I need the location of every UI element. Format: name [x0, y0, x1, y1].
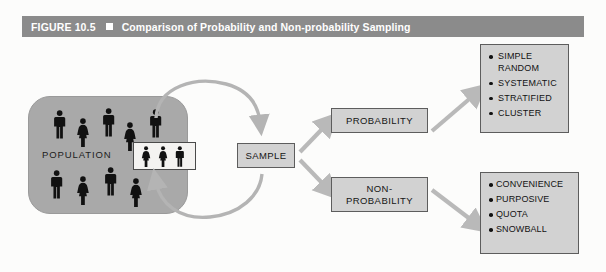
nonprobability-types-list: CONVENIENCEPURPOSIVEQUOTASNOWBALL [480, 172, 579, 254]
probability-box-label: PROBABILITY [346, 115, 413, 127]
nonprobability-box: NON- PROBABILITY [331, 177, 428, 212]
square-bullet-icon [106, 23, 113, 30]
nonprobability-box-label-line1: NON- [366, 183, 392, 194]
population-person-female [76, 176, 90, 205]
nonprobability-box-label-line2: PROBABILITY [346, 195, 413, 206]
probability-type-item: SYSTEMATIC [489, 78, 564, 90]
population-to-sample-arrow [156, 81, 260, 122]
population-person-male [104, 167, 117, 196]
nonprobability-type-item: SNOWBALL [489, 224, 574, 236]
sample-to-probability-arrow [300, 125, 326, 152]
sample-to-nonprobability-arrow [300, 160, 326, 187]
population-person-female [76, 118, 90, 147]
population-person-male [102, 108, 115, 137]
nonprobability-type-item: CONVENIENCE [489, 179, 574, 191]
probability-types-items: SIMPLE RANDOMSYSTEMATICSTRATIFIEDCLUSTER [489, 51, 564, 119]
nonprobability-type-item: QUOTA [489, 209, 574, 221]
sample-to-population-arrow [156, 174, 262, 217]
population-person-male [50, 170, 63, 199]
nonprobability-type-item: PURPOSIVE [489, 194, 574, 206]
probability-type-item: SIMPLE RANDOM [489, 51, 564, 74]
population-person-male [53, 110, 66, 139]
probability-types-list: SIMPLE RANDOMSYSTEMATICSTRATIFIEDCLUSTER [480, 44, 569, 133]
probability-type-item: CLUSTER [489, 108, 564, 120]
sample-box-label: SAMPLE [245, 150, 286, 162]
nonprobability-types-items: CONVENIENCEPURPOSIVEQUOTASNOWBALL [489, 179, 574, 236]
sample-box: SAMPLE [237, 143, 295, 168]
probability-to-types-arrow [432, 95, 474, 131]
probability-type-item: STRATIFIED [489, 93, 564, 105]
figure-header: FIGURE 10.5 Comparison of Probability an… [22, 16, 584, 37]
probability-box: PROBABILITY [331, 108, 428, 133]
population-label: POPULATION [42, 149, 112, 160]
nonprobability-to-types-arrow [432, 190, 474, 222]
figure-page: FIGURE 10.5 Comparison of Probability an… [0, 0, 606, 272]
figure-number: FIGURE 10.5 [31, 21, 96, 33]
population-person-female [129, 178, 143, 207]
figure-title: Comparison of Probability and Non-probab… [122, 21, 411, 33]
